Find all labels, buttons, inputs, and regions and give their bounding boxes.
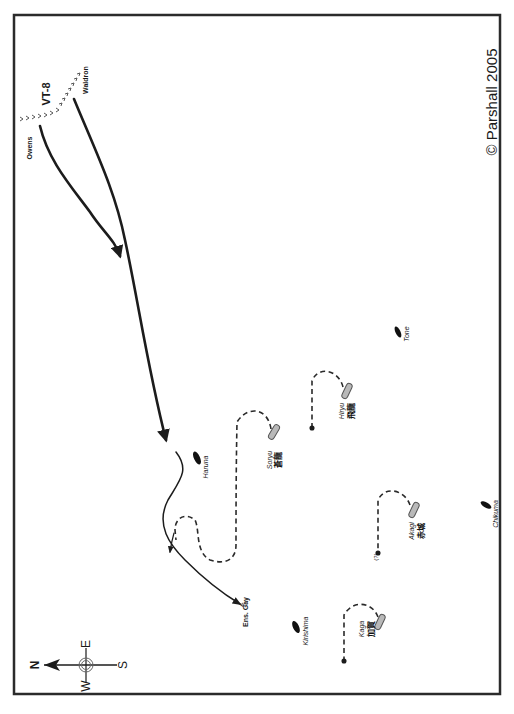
vt8-label: VT-8 <box>40 82 52 105</box>
hiryu-name-label: Hiryu <box>338 403 346 419</box>
kirishima-label: Kirishima <box>302 617 309 646</box>
soryu-kanji-label: 蒼龍 <box>273 452 283 469</box>
waldron-flight-path <box>74 99 166 440</box>
pilot-label-waldron: Waldron <box>82 66 89 94</box>
compass-rose-icon <box>44 648 117 682</box>
soryu-track <box>175 411 271 562</box>
compass-n-label: N <box>28 661 42 670</box>
kirishima-ship-icon <box>291 620 302 634</box>
chikuma-label: Chikuma <box>492 500 499 528</box>
map-frame <box>14 15 500 694</box>
kaga-name-label: Kaga <box>358 621 366 637</box>
soryu-carrier-icon <box>267 424 280 441</box>
battle-map: © Parshall 2005 VT-8 Waldron Owens ✲ Ens… <box>0 0 514 714</box>
unknown-marker-label: (?) <box>373 553 379 560</box>
akagi-name-label: Akagi <box>408 522 416 541</box>
soryu-name-label: Soryu <box>266 451 274 469</box>
compass-e-label: E <box>79 640 93 648</box>
kaga-kanji-label: 加賀 <box>366 621 376 638</box>
tone-label: Tone <box>403 326 410 341</box>
compass-w-label: W <box>79 680 93 692</box>
tone-ship-icon <box>393 326 403 339</box>
credit-label: © Parshall 2005 <box>483 49 500 156</box>
survivor-label: Ens. Gay <box>242 597 250 627</box>
akagi-track <box>378 491 410 553</box>
compass-s-label: S <box>116 661 130 669</box>
owens-flight-path <box>40 126 120 256</box>
chikuma-ship-icon <box>480 500 493 510</box>
akagi-kanji-label: 赤城 <box>416 523 426 539</box>
haruna-ship-icon <box>191 450 202 465</box>
haruna-label: Haruna <box>202 455 209 478</box>
pilot-label-owens: Owens <box>26 136 33 159</box>
hiryu-kanji-label: 飛龍 <box>346 403 356 420</box>
